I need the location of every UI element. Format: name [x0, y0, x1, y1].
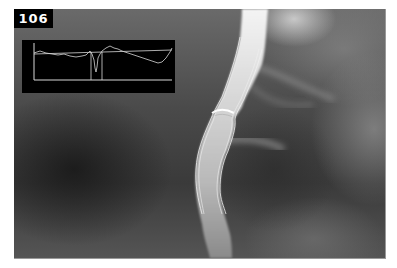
figure-number-label: 106 [14, 9, 53, 28]
diameter-profile-line [34, 46, 172, 72]
chart-plot [22, 40, 175, 93]
diameter-profile-chart [22, 40, 175, 93]
figure-number: 106 [18, 11, 48, 26]
